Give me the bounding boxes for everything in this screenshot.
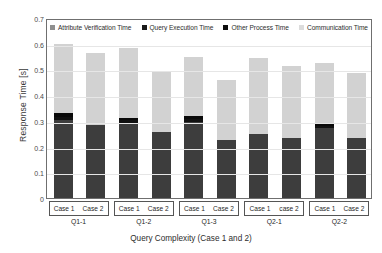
category-group-label: Q1-1 (49, 218, 109, 225)
legend-swatch-icon (50, 25, 55, 30)
legend-item: Other Process Time (223, 24, 288, 31)
bar (152, 72, 171, 198)
bar (315, 63, 334, 198)
bar-segment (54, 44, 73, 113)
bar (347, 73, 366, 198)
legend-label: Attribute Verification Time (58, 24, 131, 31)
bar-segment (315, 128, 334, 198)
category-case-label: case 2 (279, 205, 298, 212)
category-group-label: Q1-3 (179, 218, 239, 225)
category-group-label: Q2-2 (309, 218, 369, 225)
legend-label: Query Execution Time (150, 24, 214, 31)
legend-label: Other Process Time (231, 24, 288, 31)
y-axis-tick: 0 (40, 196, 44, 203)
gridline (47, 71, 371, 72)
category-case-label: Case 1 (119, 205, 140, 212)
y-axis-tick: 0.1 (34, 170, 44, 177)
chart-legend: Attribute Verification TimeQuery Executi… (48, 24, 370, 31)
bar-segment (119, 48, 138, 119)
category-case-label: Case 1 (54, 205, 75, 212)
y-axis-tick: 0.6 (34, 41, 44, 48)
legend-swatch-icon (142, 25, 147, 30)
gridline (47, 123, 371, 124)
bar-segment (347, 73, 366, 137)
bar-segment (249, 134, 268, 198)
bar (249, 58, 268, 198)
category-case-label: Case 1 (184, 205, 205, 212)
category-group-label: Q2-1 (244, 218, 304, 225)
category-case-label: Case 2 (148, 205, 169, 212)
bar-segment (184, 122, 203, 198)
legend-item: Attribute Verification Time (50, 24, 131, 31)
x-axis-title: Query Complexity (Case 1 and 2) (0, 234, 382, 243)
plot-area (46, 19, 372, 199)
category-case-label: Case 2 (343, 205, 364, 212)
y-axis-tick: 0.2 (34, 144, 44, 151)
bar-segment (86, 53, 105, 125)
y-axis-tick: 0.4 (34, 93, 44, 100)
y-axis-tick: 0.7 (34, 16, 44, 23)
legend-swatch-icon (223, 25, 228, 30)
legend-item: Query Execution Time (142, 24, 214, 31)
category-box: Case 1Case 2 (49, 201, 109, 216)
category-case-label: Case 2 (213, 205, 234, 212)
legend-label: Communication Time (307, 24, 368, 31)
bar-segment (119, 123, 138, 198)
bar (86, 53, 105, 198)
bar-segment (184, 57, 203, 116)
y-axis-tick: 0.5 (34, 67, 44, 74)
gridline (47, 97, 371, 98)
response-time-bar-chart: Response Time [s] 00.10.20.30.40.50.60.7… (0, 0, 382, 253)
bar (282, 66, 301, 198)
bar-segment (86, 125, 105, 198)
category-box: Case 1Case 2 (309, 201, 369, 216)
category-box: Case 1Case 2 (114, 201, 174, 216)
gridline (47, 149, 371, 150)
bar-segment (347, 138, 366, 198)
gridline (47, 174, 371, 175)
bar-segment (282, 138, 301, 198)
legend-swatch-icon (299, 25, 304, 30)
category-case-label: Case 1 (250, 205, 271, 212)
y-axis-tick-labels: 00.10.20.30.40.50.60.7 (20, 0, 44, 253)
bar-segment (152, 132, 171, 198)
category-case-label: Case 2 (83, 205, 104, 212)
bar (184, 57, 203, 198)
legend-item: Communication Time (299, 24, 368, 31)
gridline (47, 46, 371, 47)
y-axis-tick: 0.3 (34, 118, 44, 125)
category-case-label: Case 1 (314, 205, 335, 212)
bar-segment (282, 66, 301, 138)
category-group-label: Q1-2 (114, 218, 174, 225)
category-box: Case 1case 2 (244, 201, 304, 216)
bar-segment (54, 120, 73, 198)
category-box: Case 1Case 2 (179, 201, 239, 216)
bar-segment (217, 80, 236, 140)
